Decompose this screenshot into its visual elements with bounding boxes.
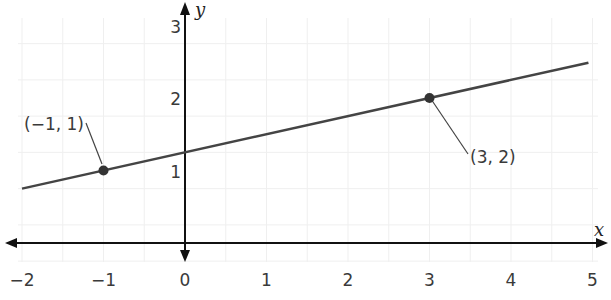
y-axis-arrow-up — [180, 2, 190, 15]
x-tick-label: 0 — [180, 270, 191, 290]
x-tick-label: −2 — [9, 270, 34, 290]
leader-line — [431, 99, 468, 154]
leader-line — [86, 123, 102, 164]
axes: x y — [5, 0, 608, 262]
x-tick-label: 2 — [343, 270, 354, 290]
point-label: (−1, 1) — [24, 114, 84, 134]
grid — [18, 18, 598, 262]
y-axis-arrow-down — [180, 250, 190, 262]
x-axis-label: x — [594, 219, 604, 240]
x-tick-labels: −2−1012345 — [9, 270, 597, 290]
x-tick-label: −1 — [91, 270, 116, 290]
x-tick-label: 4 — [506, 270, 517, 290]
x-tick-label: 5 — [587, 270, 598, 290]
y-tick-label: 2 — [170, 89, 181, 109]
y-tick-label: 3 — [170, 17, 181, 37]
y-tick-label: 1 — [170, 162, 181, 182]
x-tick-label: 3 — [424, 270, 435, 290]
data-point — [425, 93, 435, 103]
y-axis-label: y — [194, 0, 206, 20]
data-point — [99, 166, 109, 176]
point-label: (3, 2) — [470, 147, 516, 167]
chart: x y −2−1012345 123 (−1, 1)(3, 2) — [0, 0, 611, 300]
x-tick-label: 1 — [261, 270, 272, 290]
y-tick-labels: 123 — [170, 17, 181, 182]
x-axis-arrow-left — [5, 238, 17, 248]
